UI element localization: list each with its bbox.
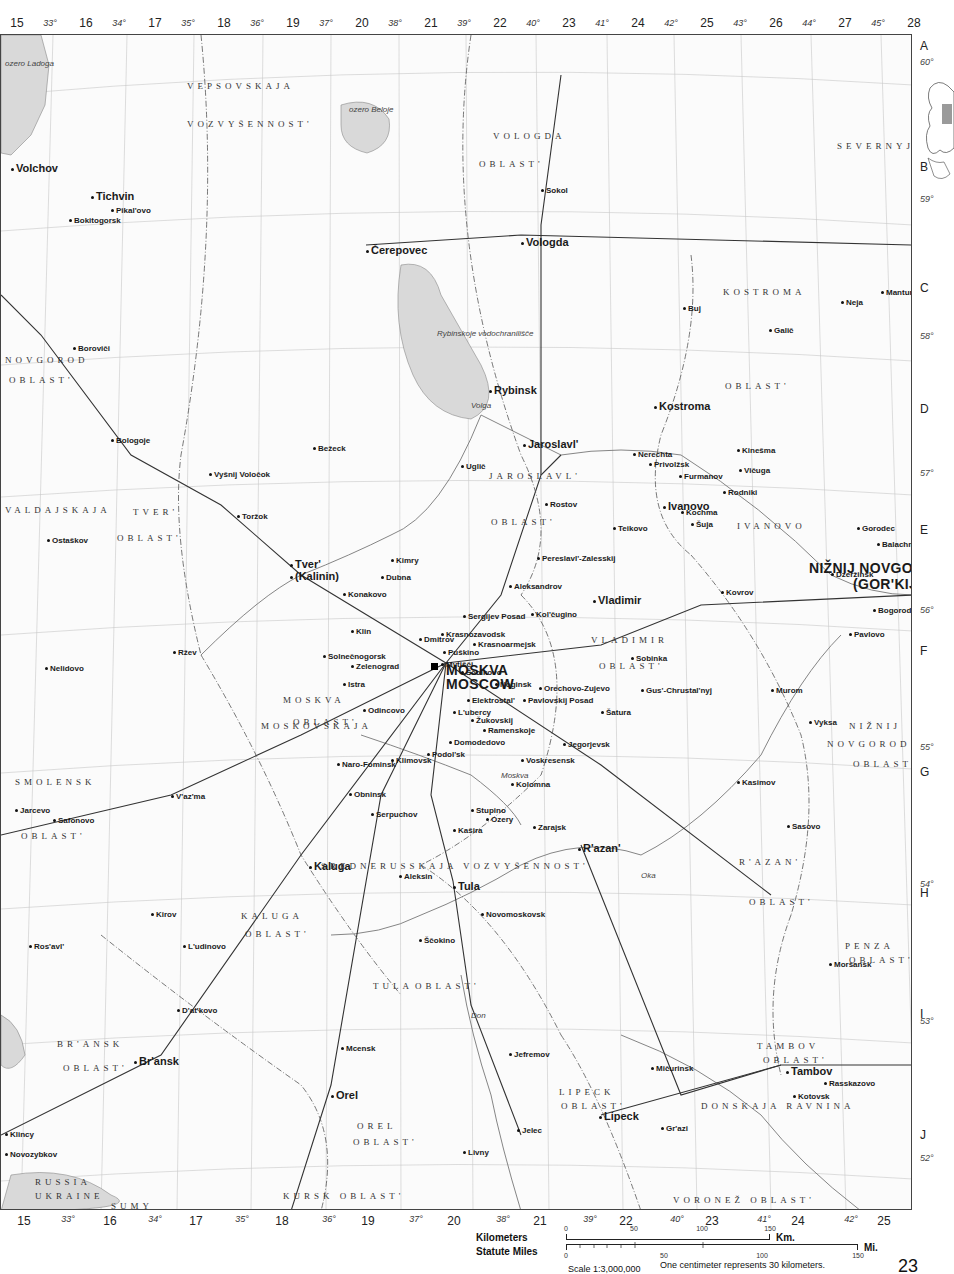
city-label[interactable]: Orel <box>331 1090 358 1101</box>
town-label[interactable]: D'at'kovo <box>177 1007 217 1015</box>
town-label[interactable]: Ščolkovo <box>461 669 502 677</box>
city-label[interactable]: Čerepovec <box>366 245 427 256</box>
town-label[interactable]: Manturovo <box>881 289 912 297</box>
town-label[interactable]: Ostaškov <box>47 537 88 545</box>
town-label[interactable]: Safonovo <box>53 817 94 825</box>
town-label[interactable]: Sokol <box>541 187 568 195</box>
town-label[interactable]: Rodniki <box>723 489 757 497</box>
town-label[interactable]: Murom <box>771 687 803 695</box>
town-label[interactable]: Jarcevo <box>15 807 50 815</box>
town-label[interactable]: Šuja <box>691 521 713 529</box>
town-label[interactable]: Jegorjevsk <box>563 741 610 749</box>
town-label[interactable]: Kašira <box>453 827 482 835</box>
town-label[interactable]: Klimovsk <box>391 757 432 765</box>
town-label[interactable]: Kasimov <box>737 779 775 787</box>
city-label[interactable]: Jaroslavl' <box>523 439 578 450</box>
town-label[interactable]: Kinešma <box>737 447 775 455</box>
major-city-label[interactable]: (GOR'KIJ) <box>853 577 912 591</box>
town-label[interactable]: Rasskazovo <box>824 1080 875 1088</box>
town-label[interactable]: L'udinovo <box>183 943 226 951</box>
town-label[interactable]: Obninsk <box>349 791 386 799</box>
town-label[interactable]: Bokitogorsk <box>69 217 121 225</box>
town-label[interactable]: Bežeck <box>313 445 346 453</box>
town-label[interactable]: Mičurinsk <box>651 1065 693 1073</box>
city-label[interactable]: Vladimir <box>593 595 641 606</box>
town-label[interactable]: Pavlovskij Posad <box>523 697 593 705</box>
city-label[interactable]: Rybinsk <box>489 385 537 396</box>
town-label[interactable]: Konakovo <box>343 591 387 599</box>
town-label[interactable]: Dzeržinsk <box>831 571 873 579</box>
town-label[interactable]: Pavlovo <box>849 631 885 639</box>
town-label[interactable]: Pikal'ovo <box>111 207 151 215</box>
town-label[interactable]: Voskresensk <box>521 757 575 765</box>
town-label[interactable]: Klincy <box>5 1131 34 1139</box>
town-label[interactable]: Podol'sk <box>427 751 465 759</box>
town-label[interactable]: Klin <box>351 628 371 636</box>
town-label[interactable]: Naro-Fominsk <box>337 761 396 769</box>
town-label[interactable]: Orechovo-Zujevo <box>539 685 610 693</box>
town-label[interactable]: Novomoskovsk <box>481 911 545 919</box>
town-label[interactable]: Solnečnogorsk <box>323 653 386 661</box>
city-label[interactable]: Br'ansk <box>134 1056 179 1067</box>
town-label[interactable]: Mcensk <box>341 1045 375 1053</box>
town-label[interactable]: Puškino <box>443 649 479 657</box>
town-label[interactable]: Šatura <box>601 709 631 717</box>
town-label[interactable]: Elektrostal' <box>467 697 515 705</box>
town-label[interactable]: Serpuchov <box>371 811 417 819</box>
town-label[interactable]: Furmanov <box>679 473 723 481</box>
town-label[interactable]: Ržev <box>173 649 197 657</box>
town-label[interactable]: Stupino <box>471 807 506 815</box>
town-label[interactable]: Dubna <box>381 574 411 582</box>
town-label[interactable]: Vyksa <box>809 719 837 727</box>
town-label[interactable]: Istra <box>343 681 365 689</box>
town-label[interactable]: Gr'azi <box>661 1125 688 1133</box>
town-label[interactable]: Novozybkov <box>5 1151 57 1159</box>
town-label[interactable]: Žukovskij <box>471 717 513 725</box>
town-label[interactable]: Zarajsk <box>533 824 566 832</box>
town-label[interactable]: Noginsk <box>495 681 532 689</box>
town-label[interactable]: Livny <box>463 1149 489 1157</box>
city-label[interactable]: Volchov <box>11 163 58 174</box>
town-label[interactable]: Ščokino <box>419 937 455 945</box>
town-label[interactable]: V'az'ma <box>171 793 205 801</box>
town-label[interactable]: Rostov <box>545 501 577 509</box>
town-label[interactable]: Kimry <box>391 557 419 565</box>
town-label[interactable]: Balachna <box>877 541 912 549</box>
town-label[interactable]: Vičuga <box>739 467 770 475</box>
town-label[interactable]: Krasnoarmejsk <box>473 641 536 649</box>
city-label[interactable]: Tichvin <box>91 191 134 202</box>
town-label[interactable]: Nerechta <box>633 451 672 459</box>
city-label[interactable]: Tver' <box>290 559 321 570</box>
town-label[interactable]: Vyšnij Voločok <box>209 471 270 479</box>
town-label[interactable]: Privolžsk <box>649 461 689 469</box>
town-label[interactable]: Krasnozavodsk <box>441 631 505 639</box>
town-label[interactable]: Kovrov <box>721 589 754 597</box>
town-label[interactable]: Bogorodsk <box>873 607 912 615</box>
town-label[interactable]: Aleksandrov <box>509 583 562 591</box>
town-label[interactable]: Kotovsk <box>793 1093 830 1101</box>
town-label[interactable]: Jelec <box>517 1127 542 1135</box>
town-label[interactable]: Aleksin <box>399 873 432 881</box>
town-label[interactable]: Boroviči <box>73 345 110 353</box>
map-canvas[interactable]: MOSKVAMOSCOWNIŽNIJ NOVGOROD(GOR'KIJ)Jaro… <box>0 34 912 1210</box>
town-label[interactable]: Bologoje <box>111 437 150 445</box>
town-label[interactable]: Pereslavl'-Zalesskij <box>537 555 616 563</box>
city-label[interactable]: Kostroma <box>654 401 710 412</box>
town-label[interactable]: Domodedovo <box>449 739 505 747</box>
town-label[interactable]: Sasovo <box>787 823 820 831</box>
city-label[interactable]: Tambov <box>786 1066 832 1077</box>
town-label[interactable]: Uglič <box>461 463 486 471</box>
town-label[interactable]: Toržok <box>237 513 268 521</box>
town-label[interactable]: Ozery <box>486 816 513 824</box>
town-label[interactable]: Gus'-Chrustal'nyj <box>641 687 712 695</box>
town-label[interactable]: Ros'avl' <box>29 943 64 951</box>
town-label[interactable]: Buj <box>683 305 701 313</box>
town-label[interactable]: Teikovo <box>613 525 648 533</box>
city-label[interactable]: (Kalinin) <box>290 571 339 582</box>
town-label[interactable]: Zelenograd <box>351 663 399 671</box>
town-label[interactable]: Kol'čugino <box>531 611 577 619</box>
town-label[interactable]: Odincovo <box>363 707 405 715</box>
town-label[interactable]: Gorodec <box>857 525 895 533</box>
town-label[interactable]: Neja <box>841 299 863 307</box>
city-label[interactable]: Vologda <box>521 237 569 248</box>
